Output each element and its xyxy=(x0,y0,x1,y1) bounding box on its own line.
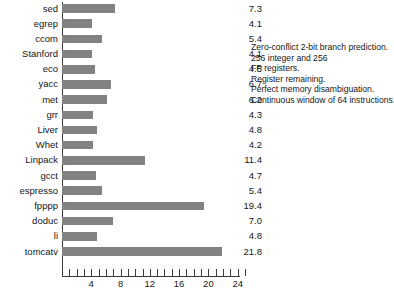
annotation-line: 256 integer and 256 xyxy=(251,53,394,64)
bar xyxy=(62,156,145,165)
bar-category-label: grr xyxy=(0,108,62,121)
bar xyxy=(62,217,113,226)
bar-category-label: espresso xyxy=(0,184,62,197)
annotation-line: Zero-conflict 2-bit branch prediction. xyxy=(251,42,394,53)
x-axis-minor-tick xyxy=(77,269,78,276)
x-axis-minor-tick xyxy=(245,269,246,276)
bar-row: Liver4.8 xyxy=(62,124,392,139)
bar-category-label: sed xyxy=(0,2,62,15)
bar-category-label: Liver xyxy=(0,123,62,136)
x-axis-minor-tick xyxy=(135,269,136,276)
x-axis-minor-tick xyxy=(62,269,63,276)
x-axis-tick-label: 24 xyxy=(226,278,250,290)
bar xyxy=(62,111,93,120)
x-axis-minor-tick xyxy=(230,269,231,276)
x-axis-minor-tick xyxy=(143,269,144,276)
x-axis-minor-tick xyxy=(113,269,114,276)
annotation-line: Continuous window of 64 instructions. xyxy=(251,95,394,106)
bar-value-label: 21.8 xyxy=(236,245,262,258)
bar xyxy=(62,4,115,13)
bar-category-label: Whet xyxy=(0,138,62,151)
bar-row: Linpack11.4 xyxy=(62,154,392,169)
bar-category-label: li xyxy=(0,229,62,242)
x-axis-major-tick xyxy=(91,269,92,276)
x-axis-major-tick xyxy=(238,269,239,276)
x-axis-ticks xyxy=(62,269,242,277)
x-axis-minor-tick xyxy=(223,269,224,276)
x-axis-minor-tick xyxy=(99,269,100,276)
bar xyxy=(62,171,96,180)
bar-category-label: met xyxy=(0,93,62,106)
bar xyxy=(62,35,102,44)
x-axis-tick-label: 8 xyxy=(109,278,133,290)
annotation-line: FP registers. xyxy=(251,63,394,74)
bar xyxy=(62,19,92,28)
bar xyxy=(62,141,93,150)
bar-category-label: Stanford xyxy=(0,47,62,60)
bar-value-label: 7.3 xyxy=(236,2,262,15)
bar-category-label: eco xyxy=(0,62,62,75)
x-axis-tick-label: 4 xyxy=(79,278,103,290)
figure: sed7.3egrep4.1ccom5.4Stanford4.1eco4.5ya… xyxy=(0,0,394,307)
bar-value-label: 4.7 xyxy=(236,169,262,182)
x-axis-minor-tick xyxy=(201,269,202,276)
bar-row: tomcatv21.8 xyxy=(62,245,392,260)
x-axis-minor-tick xyxy=(172,269,173,276)
bar xyxy=(62,202,204,211)
bar xyxy=(62,65,95,74)
bar-row: fpppp19.4 xyxy=(62,199,392,214)
bar-category-label: doduc xyxy=(0,214,62,227)
bar xyxy=(62,95,107,104)
annotation-text-block: Zero-conflict 2-bit branch prediction.25… xyxy=(251,42,394,106)
bar-category-label: egrep xyxy=(0,17,62,30)
x-axis-major-tick xyxy=(121,269,122,276)
bar-value-label: 5.4 xyxy=(236,184,262,197)
bar xyxy=(62,247,222,256)
x-axis-tick-label: 12 xyxy=(138,278,162,290)
bar-category-label: fpppp xyxy=(0,199,62,212)
x-axis-minor-tick xyxy=(128,269,129,276)
x-axis-major-tick xyxy=(150,269,151,276)
x-axis-minor-tick xyxy=(186,269,187,276)
x-axis-minor-tick xyxy=(84,269,85,276)
x-axis-minor-tick xyxy=(157,269,158,276)
bar-value-label: 4.1 xyxy=(236,17,262,30)
bar-category-label: yacc xyxy=(0,77,62,90)
x-axis-major-tick xyxy=(208,269,209,276)
bar xyxy=(62,80,111,89)
bar-row: li4.8 xyxy=(62,230,392,245)
x-axis-minor-tick xyxy=(106,269,107,276)
bar xyxy=(62,50,92,59)
bar-value-label: 7.0 xyxy=(236,214,262,227)
bar-row: Whet4.2 xyxy=(62,139,392,154)
x-axis-major-tick xyxy=(179,269,180,276)
bar-row: espresso5.4 xyxy=(62,184,392,199)
x-axis-minor-tick xyxy=(194,269,195,276)
bar xyxy=(62,232,97,241)
bar xyxy=(62,126,97,135)
x-axis-tick-labels: 4812162024 xyxy=(0,278,394,292)
bar-row: egrep4.1 xyxy=(62,17,392,32)
bar-category-label: ccom xyxy=(0,32,62,45)
annotation-line: Perfect memory disambiguation. xyxy=(251,84,394,95)
bar-row: sed7.3 xyxy=(62,2,392,17)
bar-value-label: 4.2 xyxy=(236,138,262,151)
x-axis-minor-tick xyxy=(216,269,217,276)
bar-value-label: 4.8 xyxy=(236,229,262,242)
bar-category-label: Linpack xyxy=(0,153,62,166)
x-axis-tick-label: 20 xyxy=(196,278,220,290)
bar-category-label: tomcatv xyxy=(0,245,62,258)
bar-category-label: gcct xyxy=(0,169,62,182)
x-axis-minor-tick xyxy=(164,269,165,276)
bar-value-label: 4.3 xyxy=(236,108,262,121)
bar-row: grr4.3 xyxy=(62,108,392,123)
x-axis-tick-label: 16 xyxy=(167,278,191,290)
bar-row: gcct4.7 xyxy=(62,169,392,184)
bar-value-label: 11.4 xyxy=(236,153,262,166)
bar-row: doduc7.0 xyxy=(62,215,392,230)
bar xyxy=(62,186,102,195)
annotation-line: Register remaining. xyxy=(251,74,394,85)
bar-value-label: 4.8 xyxy=(236,123,262,136)
bar-value-label: 19.4 xyxy=(236,199,262,212)
x-axis-minor-tick xyxy=(69,269,70,276)
